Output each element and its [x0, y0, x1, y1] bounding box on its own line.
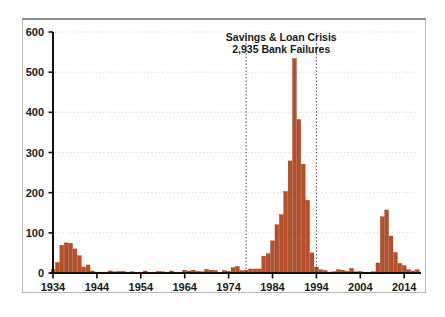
bar-1993 [310, 253, 314, 273]
y-tick-label: 400 [26, 106, 44, 118]
bar-1983 [266, 254, 270, 273]
bar-1938 [69, 243, 73, 273]
y-tick-label: 200 [26, 187, 44, 199]
bar-2012 [394, 253, 398, 273]
bar-1986 [279, 215, 283, 273]
y-tick-label: 500 [26, 66, 44, 78]
bar-1942 [86, 265, 90, 273]
x-tick-label: 1954 [129, 281, 154, 293]
bar-1989 [293, 59, 297, 273]
bar-1937 [64, 243, 68, 273]
x-tick-label: 2014 [392, 281, 417, 293]
bar-1988 [288, 161, 292, 273]
x-tick-label: 1984 [260, 281, 285, 293]
y-tick-label: 600 [26, 26, 44, 38]
x-tick-label: 1994 [304, 281, 329, 293]
bank-failures-chart-figure: 0100200300400500600 19341944195419641974… [0, 0, 445, 317]
bar-1985 [275, 225, 279, 273]
crisis-annotation-line1: Savings & Loan Crisis [226, 31, 337, 43]
y-tick-label: 300 [26, 147, 44, 159]
y-tick-label: 100 [26, 227, 44, 239]
x-tick-label: 1974 [216, 281, 241, 293]
crisis-annotation-line2: 2,935 Bank Failures [232, 43, 330, 55]
gridlines-group [55, 32, 416, 233]
bar-1992 [306, 200, 310, 273]
x-tick-label: 1944 [85, 281, 110, 293]
bar-1939 [73, 249, 77, 273]
bar-2013 [398, 263, 402, 273]
chart-canvas: 0100200300400500600 19341944195419641974… [0, 0, 445, 317]
y-tick-labels-group: 0100200300400500600 [26, 26, 44, 279]
x-tick-label: 2004 [348, 281, 373, 293]
bar-1935 [56, 263, 60, 273]
bar-2014 [402, 266, 406, 273]
bar-1982 [262, 256, 266, 273]
x-tick-labels-group: 193419441954196419741984199420042014 [41, 281, 418, 293]
bar-1940 [77, 256, 81, 273]
bar-1990 [297, 120, 301, 273]
y-tick-label: 0 [38, 267, 44, 279]
bars-group [51, 59, 419, 274]
bar-2011 [389, 236, 393, 273]
bar-1987 [284, 191, 288, 273]
bar-2010 [385, 210, 389, 273]
bar-1936 [60, 245, 64, 273]
x-tick-label: 1934 [41, 281, 66, 293]
bar-2009 [380, 217, 384, 273]
bar-2008 [376, 263, 380, 273]
bar-1991 [301, 164, 305, 273]
x-tick-label: 1964 [172, 281, 197, 293]
bar-1984 [271, 241, 275, 273]
